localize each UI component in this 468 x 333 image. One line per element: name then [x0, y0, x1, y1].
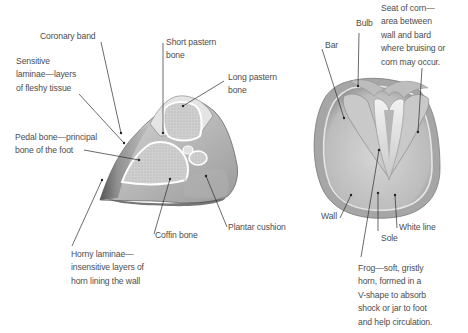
- hoof-underside: [314, 78, 440, 218]
- label-horny-laminae: Horny laminae— insensitive layers of hor…: [71, 248, 144, 288]
- label-coronary-band: Coronary band: [40, 30, 96, 43]
- label-sole: Sole: [381, 232, 398, 245]
- label-long-pastern-bone: Long pastern bone: [228, 71, 277, 98]
- label-sensitive-laminae: Sensitive laminae—layers of fleshy tissu…: [16, 55, 76, 95]
- label-pedal-bone: Pedal bone—principal bone of the foot: [15, 131, 97, 158]
- label-short-pastern-bone: Short pastern bone: [166, 36, 216, 63]
- label-plantar-cushion: Plantar cushion: [228, 221, 286, 234]
- hoof-anatomy-diagram: Coronary band Short pastern bone Sensiti…: [0, 0, 468, 333]
- label-wall: Wall: [321, 210, 337, 223]
- label-frog: Frog—soft, gristly horn, formed in a V-s…: [358, 262, 432, 329]
- hoof-cross-section: [100, 96, 238, 206]
- label-seat-of-corn: Seat of corn— area between wall and bard…: [381, 2, 445, 69]
- label-coffin-bone: Coffin bone: [155, 229, 198, 242]
- label-white-line: White line: [399, 221, 436, 234]
- label-bulb: Bulb: [356, 17, 373, 30]
- label-bar: Bar: [325, 39, 338, 52]
